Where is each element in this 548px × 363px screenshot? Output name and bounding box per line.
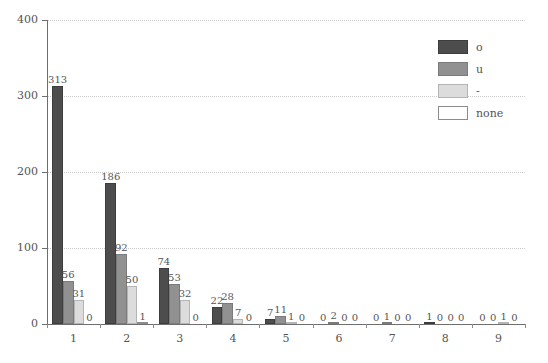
bar-value-label: 7 xyxy=(235,307,241,318)
bar-value-label: 31 xyxy=(72,288,85,299)
bar-value-label: 0 xyxy=(394,312,400,323)
legend-label: none xyxy=(476,107,503,120)
bar xyxy=(180,300,191,324)
bar xyxy=(52,86,63,324)
bar-value-label: 1 xyxy=(384,311,390,322)
bar-value-label: 74 xyxy=(157,256,170,267)
x-axis-tick xyxy=(206,324,207,328)
legend-item[interactable]: none xyxy=(438,102,538,124)
bar-value-label: 0 xyxy=(320,312,326,323)
bar-value-label: 0 xyxy=(299,312,305,323)
bar xyxy=(74,300,85,324)
bar-value-label: 0 xyxy=(86,312,92,323)
bar-value-label: 0 xyxy=(447,312,453,323)
bar-value-label: 0 xyxy=(341,312,347,323)
bar-value-label: 11 xyxy=(274,304,287,315)
x-axis-tick-label: 9 xyxy=(478,332,518,345)
bar-value-label: 56 xyxy=(62,269,75,280)
bar-chart: 3135631018692501745332022287071110020001… xyxy=(0,0,548,363)
bar-value-label: 0 xyxy=(405,312,411,323)
x-axis-tick xyxy=(313,324,314,328)
bar-value-label: 53 xyxy=(168,272,181,283)
x-axis-tick xyxy=(153,324,154,328)
bar-value-label: 0 xyxy=(490,312,496,323)
bar-value-label: 0 xyxy=(437,312,443,323)
y-axis-tick-label: 0 xyxy=(0,318,38,329)
legend-item[interactable]: u xyxy=(438,58,538,80)
y-axis-tick-label: 300 xyxy=(0,90,38,101)
bar-value-label: 1 xyxy=(501,311,507,322)
x-axis-tick-label: 6 xyxy=(319,332,359,345)
y-axis-tick xyxy=(42,96,47,97)
bar-value-label: 50 xyxy=(126,274,139,285)
bar-value-label: 1 xyxy=(288,311,294,322)
bar-value-label: 0 xyxy=(511,312,517,323)
bar-value-label: 1 xyxy=(426,311,432,322)
y-axis-tick-label: 100 xyxy=(0,242,38,253)
bar-value-label: 7 xyxy=(267,307,273,318)
x-axis-tick-label: 4 xyxy=(213,332,253,345)
bar-value-label: 92 xyxy=(115,242,128,253)
y-axis-tick xyxy=(42,20,47,21)
legend-swatch xyxy=(438,84,468,98)
bar-value-label: 0 xyxy=(479,312,485,323)
legend-item[interactable]: - xyxy=(438,80,538,102)
bar-value-label: 0 xyxy=(246,312,252,323)
y-axis-tick-label: 400 xyxy=(0,14,38,25)
legend-swatch xyxy=(438,62,468,76)
y-axis-tick xyxy=(42,172,47,173)
y-axis-tick xyxy=(42,248,47,249)
bar-value-label: 32 xyxy=(179,288,192,299)
x-axis-tick-label: 7 xyxy=(372,332,412,345)
legend-swatch xyxy=(438,40,468,54)
x-axis-tick xyxy=(525,324,526,328)
x-axis-tick-label: 5 xyxy=(266,332,306,345)
x-axis-tick xyxy=(472,324,473,328)
bar xyxy=(127,286,138,324)
bar-value-label: 0 xyxy=(458,312,464,323)
bar-value-label: 28 xyxy=(221,291,234,302)
x-axis-tick xyxy=(419,324,420,328)
bar xyxy=(116,254,127,324)
bar-value-label: 0 xyxy=(352,312,358,323)
x-axis-tick xyxy=(100,324,101,328)
bar-value-label: 0 xyxy=(193,312,199,323)
bar-value-label: 0 xyxy=(373,312,379,323)
legend-label: - xyxy=(476,85,480,98)
x-axis-tick xyxy=(47,324,48,328)
x-axis-line xyxy=(47,324,525,325)
x-axis-tick-label: 3 xyxy=(160,332,200,345)
bar-value-label: 2 xyxy=(331,310,337,321)
legend: ou-none xyxy=(438,36,538,124)
gridline xyxy=(47,20,525,21)
y-axis-tick-label: 200 xyxy=(0,166,38,177)
x-axis-tick-label: 1 xyxy=(54,332,94,345)
bar xyxy=(212,307,223,324)
x-axis-tick-label: 8 xyxy=(425,332,465,345)
x-axis-tick-label: 2 xyxy=(107,332,147,345)
bar-value-label: 313 xyxy=(48,74,67,85)
legend-label: o xyxy=(476,41,483,54)
x-axis-tick xyxy=(366,324,367,328)
legend-label: u xyxy=(476,63,483,76)
bar-value-label: 186 xyxy=(101,171,120,182)
y-axis-line xyxy=(47,20,48,324)
bar xyxy=(105,183,116,324)
bar xyxy=(275,316,286,324)
bar-value-label: 1 xyxy=(139,311,145,322)
bar xyxy=(222,303,233,324)
legend-item[interactable]: o xyxy=(438,36,538,58)
x-axis-tick xyxy=(259,324,260,328)
legend-swatch xyxy=(438,106,468,120)
